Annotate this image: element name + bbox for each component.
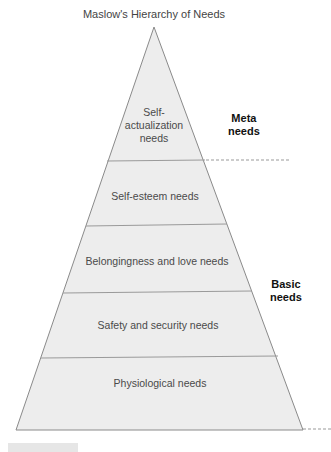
layer-self-actualization: Self- actualization needs — [125, 106, 183, 145]
layer-belongingness-love: Belongingness and love needs — [85, 255, 228, 268]
group-label-meta-needs: Meta needs — [228, 112, 260, 138]
group-label-basic-needs: Basic needs — [270, 278, 302, 304]
layer-physiological: Physiological needs — [114, 377, 207, 390]
figure-caption-tag — [8, 443, 78, 452]
pyramid-outline — [16, 27, 303, 430]
layer-self-esteem: Self-esteem needs — [111, 190, 199, 203]
layer-safety-security: Safety and security needs — [98, 319, 219, 332]
